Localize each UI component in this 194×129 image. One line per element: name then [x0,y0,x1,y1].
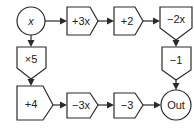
node-add-2-label: +2 [121,15,134,27]
node-mul-5-label: ×5 [25,53,38,65]
arrow-icon [60,18,67,25]
node-sub-1-label: −1 [170,54,183,66]
node-output: Out [161,90,191,120]
arrow-icon [154,102,161,109]
arrow-icon [153,18,160,25]
arrow-icon [107,18,114,25]
arrow-icon [173,40,180,47]
node-sub-2x-label: −2x [167,13,186,25]
arrow-icon [107,102,114,109]
node-add-3x-label: +3x [72,15,91,27]
node-sub-3x: −3x [67,93,98,118]
flowchart: x +3x +2 −2x −1 ×5 +4 −3x −3 [0,0,194,129]
arrow-icon [173,83,180,90]
node-add-4-label: +4 [25,98,38,110]
node-input-label: x [27,15,34,27]
edges [28,18,180,109]
node-sub-3x-label: −3x [72,99,91,111]
node-sub-2x: −2x [160,7,192,40]
node-sub-3-label: −3 [121,99,134,111]
node-output-label: Out [167,99,185,111]
node-sub-1: −1 [162,47,191,80]
node-sub-3: −3 [114,93,143,118]
arrow-icon [28,40,35,47]
arrow-icon [60,102,67,109]
node-add-2: +2 [114,7,143,35]
arrow-icon [28,79,35,86]
node-input: x [17,7,45,35]
node-add-4: +4 [17,86,53,120]
node-add-3x: +3x [67,7,98,35]
node-mul-5: ×5 [17,47,46,79]
